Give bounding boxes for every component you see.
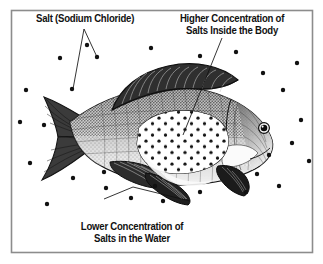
figure-root: Salt (Sodium Chloride) Higher Concentrat… xyxy=(0,0,323,264)
lower-concentration-label-line1: Lower Concentration of xyxy=(81,221,183,233)
higher-concentration-label-line2: Salts Inside the Body xyxy=(180,25,284,37)
lower-concentration-label: Lower Concentration of Salts in the Wate… xyxy=(81,221,183,244)
salt-label-line1: Salt (Sodium Chloride) xyxy=(36,13,134,25)
lower-concentration-label-line2: Salts in the Water xyxy=(81,233,183,245)
higher-concentration-label: Higher Concentration of Salts Inside the… xyxy=(180,13,284,36)
salt-label: Salt (Sodium Chloride) xyxy=(36,13,134,25)
fish-eye xyxy=(259,123,270,134)
higher-concentration-label-line1: Higher Concentration of xyxy=(180,13,284,25)
